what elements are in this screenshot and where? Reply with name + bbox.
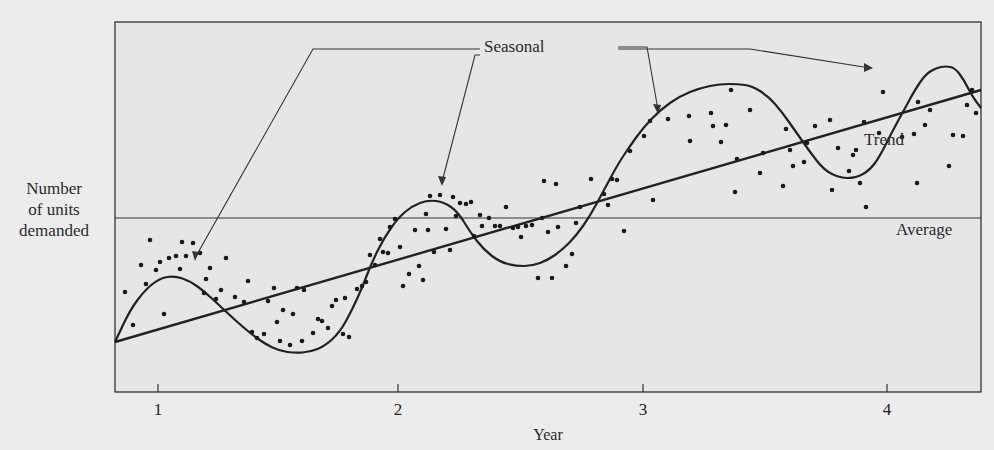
data-point bbox=[272, 286, 277, 291]
y-axis-label-line-2: of units bbox=[0, 199, 108, 220]
data-point bbox=[606, 203, 611, 208]
data-point bbox=[602, 192, 607, 197]
data-point bbox=[923, 123, 928, 128]
data-point bbox=[928, 108, 933, 113]
data-point bbox=[589, 177, 594, 182]
data-point bbox=[546, 230, 551, 235]
data-point bbox=[519, 235, 524, 240]
data-point bbox=[204, 277, 209, 282]
data-point bbox=[836, 146, 841, 151]
data-point bbox=[530, 223, 535, 228]
data-point bbox=[947, 164, 952, 169]
data-point bbox=[432, 250, 437, 255]
data-point bbox=[320, 319, 325, 324]
data-point bbox=[378, 237, 383, 242]
y-axis-label-line-3: demanded bbox=[0, 220, 108, 241]
data-point bbox=[421, 278, 426, 283]
data-point bbox=[355, 287, 360, 292]
data-point bbox=[912, 132, 917, 137]
data-point bbox=[828, 118, 833, 123]
data-point bbox=[472, 234, 477, 239]
data-point bbox=[487, 216, 492, 221]
x-tick-label-4: 4 bbox=[883, 400, 892, 420]
data-point bbox=[388, 225, 393, 230]
data-point bbox=[180, 240, 185, 245]
data-point bbox=[448, 248, 453, 253]
data-point bbox=[974, 111, 979, 116]
data-point bbox=[570, 252, 575, 257]
data-point bbox=[961, 134, 966, 139]
data-point bbox=[858, 181, 863, 186]
data-point bbox=[951, 133, 956, 138]
data-point bbox=[516, 225, 521, 230]
chart-canvas bbox=[0, 0, 994, 450]
data-point bbox=[360, 284, 365, 289]
data-point bbox=[417, 264, 422, 269]
data-point bbox=[648, 119, 653, 124]
data-point bbox=[275, 320, 280, 325]
x-axis-label: Year bbox=[533, 425, 562, 445]
x-tick-label-3: 3 bbox=[639, 400, 648, 420]
data-point bbox=[281, 308, 286, 313]
data-point bbox=[864, 205, 869, 210]
data-point bbox=[615, 178, 620, 183]
data-point bbox=[148, 238, 153, 243]
data-point bbox=[131, 323, 136, 328]
data-point bbox=[233, 295, 238, 300]
data-point bbox=[368, 253, 373, 258]
data-point bbox=[266, 299, 271, 304]
data-point bbox=[556, 225, 561, 230]
data-point bbox=[381, 250, 386, 255]
data-point bbox=[709, 111, 714, 116]
data-point bbox=[758, 171, 763, 176]
data-point bbox=[316, 317, 321, 322]
data-point bbox=[311, 331, 316, 336]
data-point bbox=[214, 297, 219, 302]
data-point bbox=[202, 291, 207, 296]
data-point bbox=[915, 181, 920, 186]
data-point bbox=[622, 229, 627, 234]
data-point bbox=[970, 88, 975, 93]
data-point bbox=[469, 200, 474, 205]
data-point bbox=[813, 124, 818, 129]
data-point bbox=[224, 256, 229, 261]
data-point bbox=[413, 228, 418, 233]
data-point bbox=[208, 266, 213, 271]
data-point bbox=[343, 296, 348, 301]
data-point bbox=[158, 260, 163, 265]
data-point bbox=[373, 263, 378, 268]
data-point bbox=[444, 227, 449, 232]
data-point bbox=[458, 201, 463, 206]
data-point bbox=[278, 339, 283, 344]
data-point bbox=[454, 214, 459, 219]
data-point bbox=[724, 123, 729, 128]
data-point bbox=[493, 224, 498, 229]
data-point bbox=[478, 213, 483, 218]
data-point bbox=[300, 339, 305, 344]
average-annotation: Average bbox=[896, 220, 952, 240]
data-point bbox=[123, 290, 128, 295]
data-point bbox=[784, 127, 789, 132]
data-point bbox=[295, 286, 300, 291]
data-point bbox=[167, 256, 172, 261]
x-tick-label-1: 1 bbox=[154, 400, 163, 420]
data-point bbox=[162, 312, 167, 317]
data-point bbox=[862, 120, 867, 125]
data-point bbox=[154, 268, 159, 273]
data-point bbox=[242, 300, 247, 305]
data-point bbox=[688, 139, 693, 144]
data-point bbox=[451, 195, 456, 200]
data-point bbox=[250, 330, 255, 335]
y-axis-label: Number of units demanded bbox=[0, 178, 108, 241]
trend-annotation: Trend bbox=[864, 130, 904, 150]
data-point bbox=[178, 267, 183, 272]
data-point bbox=[781, 184, 786, 189]
data-point bbox=[219, 288, 224, 293]
data-point bbox=[428, 194, 433, 199]
data-point bbox=[341, 332, 346, 337]
data-point bbox=[735, 157, 740, 162]
data-point bbox=[748, 108, 753, 113]
data-point bbox=[498, 224, 503, 229]
data-point bbox=[438, 193, 443, 198]
data-point bbox=[642, 134, 647, 139]
